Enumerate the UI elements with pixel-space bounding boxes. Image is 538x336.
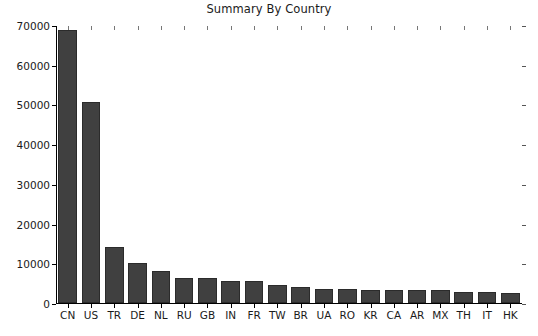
bar (128, 263, 147, 303)
top-tick-mark (231, 26, 232, 30)
top-tick-mark (394, 26, 395, 30)
right-tick-mark (522, 145, 526, 146)
x-tick-label: CN (60, 309, 75, 321)
x-tick-label: FR (247, 309, 260, 321)
y-tick-mark (52, 145, 56, 146)
bar (361, 290, 380, 303)
bar (82, 102, 101, 303)
top-tick-mark (138, 26, 139, 30)
x-tick-label: TW (269, 309, 286, 321)
x-tick-label: GB (200, 309, 215, 321)
bar (478, 292, 497, 303)
x-tick-mark (464, 304, 465, 308)
x-tick-label: RU (177, 309, 192, 321)
top-tick-mark (417, 26, 418, 30)
y-tick-mark (52, 264, 56, 265)
right-tick-mark (522, 185, 526, 186)
x-tick-mark (324, 304, 325, 308)
chart-title: Summary By Country (0, 2, 538, 16)
right-tick-mark (522, 105, 526, 106)
top-tick-mark (347, 26, 348, 30)
top-tick-mark (277, 26, 278, 30)
right-tick-mark (522, 304, 526, 305)
bar (291, 287, 310, 303)
top-tick-mark (464, 26, 465, 30)
x-tick-label: MX (432, 309, 448, 321)
y-tick-label: 40000 (17, 139, 50, 151)
bar (175, 278, 194, 303)
top-tick-mark (324, 26, 325, 30)
y-tick-label: 70000 (17, 20, 50, 32)
x-tick-mark (417, 304, 418, 308)
top-tick-mark (114, 26, 115, 30)
bar (385, 290, 404, 303)
y-tick-mark (52, 105, 56, 106)
bar (501, 293, 520, 303)
bar (268, 285, 287, 303)
x-tick-label: IT (482, 309, 492, 321)
x-tick-label: DE (130, 309, 145, 321)
right-tick-mark (522, 225, 526, 226)
x-tick-label: TH (457, 309, 471, 321)
x-tick-label: US (84, 309, 98, 321)
y-tick-label: 20000 (17, 219, 50, 231)
y-tick-label: 50000 (17, 99, 50, 111)
y-tick-label: 60000 (17, 60, 50, 72)
bar (431, 290, 450, 303)
top-tick-mark (440, 26, 441, 30)
x-tick-mark (277, 304, 278, 308)
y-tick-mark (52, 185, 56, 186)
x-tick-label: KR (363, 309, 377, 321)
y-tick-mark (52, 26, 56, 27)
x-tick-mark (487, 304, 488, 308)
x-tick-mark (394, 304, 395, 308)
x-axis-spine (56, 303, 522, 304)
top-tick-mark (207, 26, 208, 30)
x-tick-label: NL (154, 309, 168, 321)
x-tick-mark (184, 304, 185, 308)
right-tick-mark (522, 264, 526, 265)
x-tick-mark (371, 304, 372, 308)
top-tick-mark (161, 26, 162, 30)
y-tick-mark (52, 225, 56, 226)
x-tick-mark (347, 304, 348, 308)
bar (408, 290, 427, 303)
y-tick-label: 10000 (17, 258, 50, 270)
x-tick-label: IN (225, 309, 236, 321)
x-tick-mark (510, 304, 511, 308)
x-tick-mark (68, 304, 69, 308)
bar (152, 271, 171, 303)
top-tick-mark (184, 26, 185, 30)
plot-area: 010000200003000040000500006000070000 CNU… (56, 26, 522, 304)
bar (338, 289, 357, 303)
bar (58, 30, 77, 303)
top-tick-mark (301, 26, 302, 30)
x-tick-mark (138, 304, 139, 308)
x-tick-mark (440, 304, 441, 308)
y-tick-label: 30000 (17, 179, 50, 191)
x-tick-mark (301, 304, 302, 308)
bar (315, 289, 334, 303)
x-tick-label: UA (317, 309, 332, 321)
bar (105, 247, 124, 303)
x-tick-mark (91, 304, 92, 308)
chart-figure: Summary By Country 010000200003000040000… (0, 0, 538, 336)
bar (245, 281, 264, 303)
y-tick-mark (52, 304, 56, 305)
top-tick-mark (510, 26, 511, 30)
y-axis-spine (56, 26, 57, 304)
top-tick-mark (487, 26, 488, 30)
right-tick-mark (522, 26, 526, 27)
x-tick-label: HK (503, 309, 518, 321)
x-tick-mark (207, 304, 208, 308)
x-tick-mark (114, 304, 115, 308)
top-tick-mark (254, 26, 255, 30)
top-tick-mark (91, 26, 92, 30)
x-tick-mark (254, 304, 255, 308)
top-tick-mark (371, 26, 372, 30)
right-tick-mark (522, 66, 526, 67)
x-tick-label: AR (410, 309, 424, 321)
x-tick-label: TR (107, 309, 121, 321)
bar (454, 292, 473, 303)
x-tick-label: CA (387, 309, 402, 321)
